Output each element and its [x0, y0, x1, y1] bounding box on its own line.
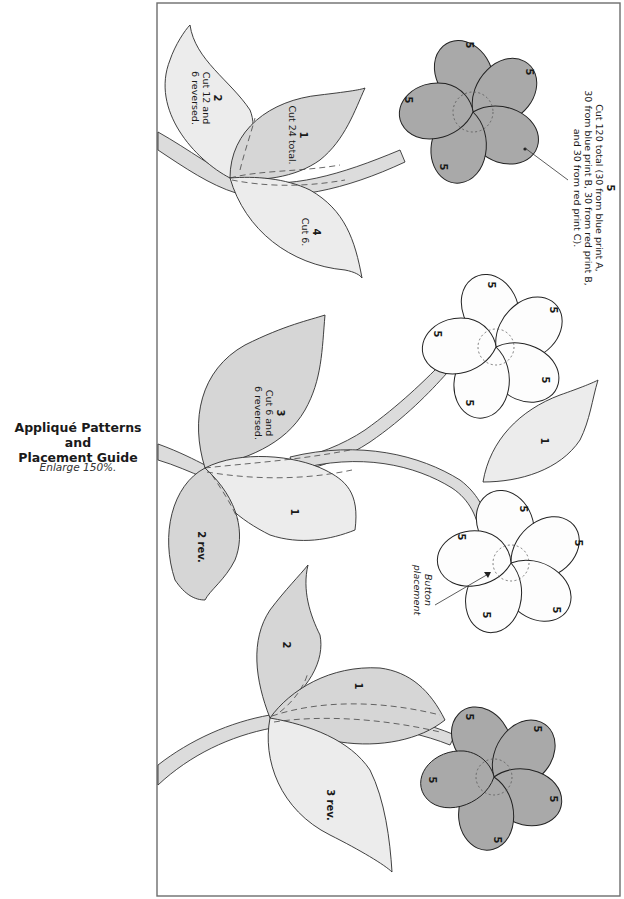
label-piece2-num: 2: [212, 95, 223, 102]
petal-label: 5: [481, 612, 492, 619]
applique-diagram: 2 Cut 12 and 6 reversed. 1 Cut 24 total.…: [0, 0, 624, 899]
label-piece4-text: Cut 6.: [300, 218, 311, 246]
label-piece2rev-middle: 2 rev.: [196, 531, 207, 563]
petal-label: 5: [492, 837, 503, 844]
petal-label: 5: [432, 331, 443, 338]
petal-label: 5: [486, 282, 497, 289]
petal-label: 5: [456, 534, 467, 541]
button-label-line1: Button: [423, 574, 434, 606]
label-piece2-line1: Cut 12 and: [201, 72, 212, 124]
label-piece1-num: 1: [298, 132, 309, 139]
petal-label: 5: [464, 42, 475, 49]
label-piece1-middle: 1: [289, 509, 300, 516]
petal-label: 5: [551, 607, 562, 614]
callout-piece5-line3: and 30 from red print C).: [572, 129, 583, 247]
petal-label: 5: [532, 726, 543, 733]
petal-label: 5: [548, 796, 559, 803]
petal-label: 5: [573, 540, 584, 547]
petal-label: 5: [540, 377, 551, 384]
callout-piece5-num: 5: [605, 185, 616, 192]
petal-label: 5: [464, 400, 475, 407]
petal-label: 5: [464, 714, 475, 721]
petal-label: 5: [438, 164, 449, 171]
callout-piece5-line1: Cut 120 total (30 from blue print A,: [594, 104, 605, 272]
callout-piece5-line2: 30 from blue print B, 30 from red print …: [583, 90, 594, 285]
label-piece3rev-bottom: 3 rev.: [325, 789, 336, 821]
petal-label: 5: [403, 97, 414, 104]
petal-label: 5: [548, 307, 559, 314]
label-piece3-line1: Cut 6 and: [264, 390, 275, 436]
petal-label: 5: [427, 777, 438, 784]
label-piece3-num: 3: [275, 410, 286, 417]
label-piece4-num: 4: [311, 229, 322, 236]
label-piece2-line2: 6 reversed.: [190, 71, 201, 125]
label-piece1-text: Cut 24 total.: [287, 105, 298, 164]
petal-label: 5: [518, 506, 529, 513]
petal-label: 5: [524, 69, 535, 76]
label-piece1-right: 1: [539, 438, 550, 445]
button-label-line2: placement: [412, 564, 423, 617]
label-piece1-bottom: 1: [353, 683, 364, 690]
label-piece3-line2: 6 reversed.: [253, 386, 264, 440]
label-piece2-bottom: 2: [281, 642, 292, 649]
